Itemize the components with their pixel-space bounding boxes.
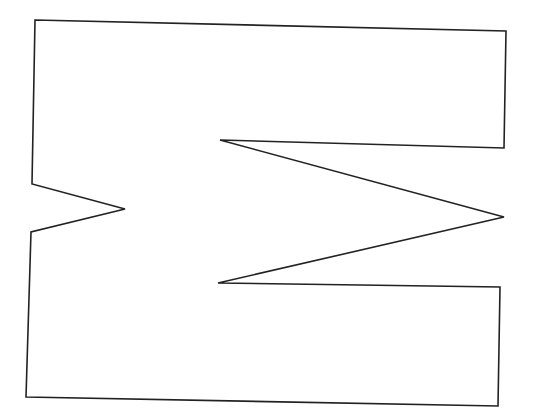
- diagram-canvas: [0, 0, 534, 419]
- polygon-outline: [26, 20, 506, 406]
